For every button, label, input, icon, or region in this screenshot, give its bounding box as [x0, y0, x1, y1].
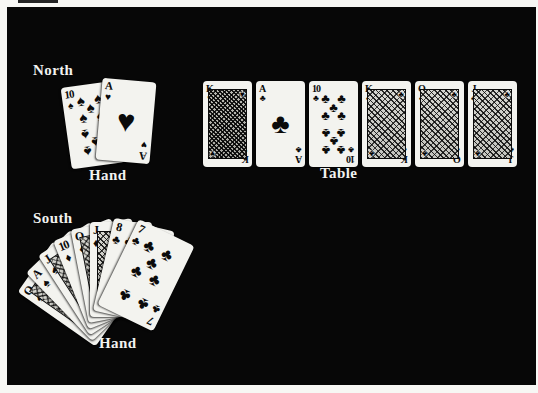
card-K-club[interactable]: K♣K♣♣♣ [362, 81, 411, 167]
heart-icon: ♥ [240, 91, 245, 99]
card-index-tl: A♥ [104, 81, 114, 103]
south-hand-label: Hand [99, 336, 136, 351]
heart-icon: ♥ [105, 92, 112, 102]
court-art: ♣♣ [367, 89, 405, 160]
spade-icon: ♠ [81, 126, 91, 142]
court-art: ♣♣ [473, 89, 511, 160]
card-index-tl: A♣ [259, 84, 266, 103]
club-icon: ♣ [451, 91, 456, 99]
spade-icon: ♠ [76, 94, 86, 110]
heart-icon: ♥ [210, 149, 215, 157]
club-icon: ♣ [271, 110, 289, 138]
card-10-club[interactable]: 10♣10♣♣♣♣♣♣♣♣♣♣♣ [309, 81, 358, 167]
card-A-heart[interactable]: A♥A♥♥ [96, 78, 157, 164]
club-icon: ♣ [398, 91, 403, 99]
club-icon: ♣ [337, 126, 346, 139]
court-art: ♥♥ [208, 89, 246, 160]
club-icon: ♣ [128, 261, 145, 281]
south-label: South [33, 211, 73, 226]
spade-icon: ♠ [39, 276, 52, 289]
card-index-br: A♥ [139, 139, 149, 161]
table-label: Table [320, 166, 357, 181]
club-icon: ♣ [158, 245, 175, 265]
club-icon: ♣ [321, 144, 330, 157]
screen: North Hand Table South Hand 10♠10♠♠♠♠♠♠♠… [7, 7, 536, 385]
card-K-heart[interactable]: K♥K♥♥♥ [203, 81, 252, 167]
club-icon: ♣ [337, 109, 346, 122]
club-icon: ♣ [116, 285, 133, 305]
club-icon: ♣ [369, 149, 374, 157]
heart-icon: ♥ [115, 105, 136, 137]
club-icon: ♣ [337, 91, 346, 104]
club-icon: ♣ [134, 294, 151, 314]
club-icon: ♣ [260, 94, 266, 103]
club-icon: ♣ [422, 149, 427, 157]
pip-grid: ♣♣♣♣♣♣♣♣♣♣ [316, 88, 350, 160]
heart-icon: ♥ [141, 140, 148, 150]
card-J-club[interactable]: J♣J♣♣♣ [468, 81, 517, 167]
club-icon: ♣ [475, 149, 480, 157]
scan-artifact [18, 0, 58, 3]
court-art: ♣♣ [420, 89, 458, 160]
card-A-club[interactable]: A♣A♣♣ [256, 81, 305, 167]
card-Q-club[interactable]: Q♣Q♣♣♣ [415, 81, 464, 167]
north-hand-label: Hand [89, 168, 126, 183]
page: North Hand Table South Hand 10♠10♠♠♠♠♠♠♠… [0, 0, 538, 393]
north-label: North [33, 63, 73, 78]
card-index-br: A♣ [295, 145, 302, 164]
club-icon: ♣ [504, 91, 509, 99]
club-icon: ♣ [295, 145, 301, 154]
club-icon: ♣ [337, 144, 346, 157]
club-icon: ♣ [321, 109, 330, 122]
